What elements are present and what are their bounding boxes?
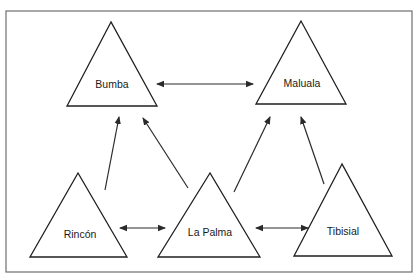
triangle-icon [30, 173, 127, 257]
node-tibisial: Tibisial [294, 164, 392, 256]
node-label-bumba: Bumba [95, 78, 128, 90]
arrow-la-palma-to-bumba [143, 118, 188, 188]
diagram-canvas: Bumba Maluala Rincón La Palma Tibisial [0, 0, 417, 280]
arrow-tibisial-to-maluala [301, 117, 324, 184]
arrow-la-palma-to-maluala [234, 117, 270, 192]
arrow-rincon-to-bumba [105, 117, 119, 190]
triangle-icon [158, 173, 260, 257]
node-rincon: Rincón [30, 173, 127, 257]
triangle-icon [67, 22, 157, 106]
node-la-palma: La Palma [158, 173, 260, 257]
node-maluala: Maluala [256, 21, 346, 104]
triangle-icon [294, 164, 392, 256]
node-label-la-palma: La Palma [188, 226, 233, 238]
triangle-icon [256, 21, 346, 104]
node-label-maluala: Maluala [284, 77, 321, 89]
node-label-rincon: Rincón [64, 228, 97, 240]
node-label-tibisial: Tibisial [327, 225, 359, 237]
node-bumba: Bumba [67, 22, 157, 106]
